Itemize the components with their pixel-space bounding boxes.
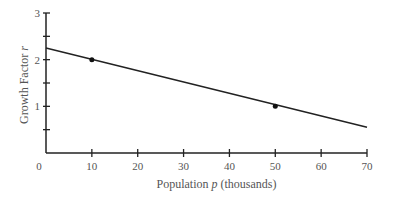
x-tick-label: 70 [362,160,374,172]
x-tick-label: 10 [86,160,98,172]
y-tick-label: 1 [35,100,41,112]
y-axis-label: Growth Factor r [17,46,31,124]
x-tick-label: 60 [316,160,328,172]
chart: 010203040506070123Population p (thousand… [0,0,395,200]
x-tick-label: 20 [132,160,144,172]
x-tick-label: 50 [270,160,282,172]
x-tick-label: 40 [224,160,236,172]
y-tick-label: 2 [35,54,41,66]
x-tick-label: 0 [36,160,42,172]
data-point [89,57,94,62]
y-tick-label: 3 [35,7,41,19]
data-point [273,104,278,109]
x-axis-label: Population p (thousands) [156,177,276,191]
x-tick-label: 30 [178,160,190,172]
line-chart: 010203040506070123Population p (thousand… [0,0,395,200]
